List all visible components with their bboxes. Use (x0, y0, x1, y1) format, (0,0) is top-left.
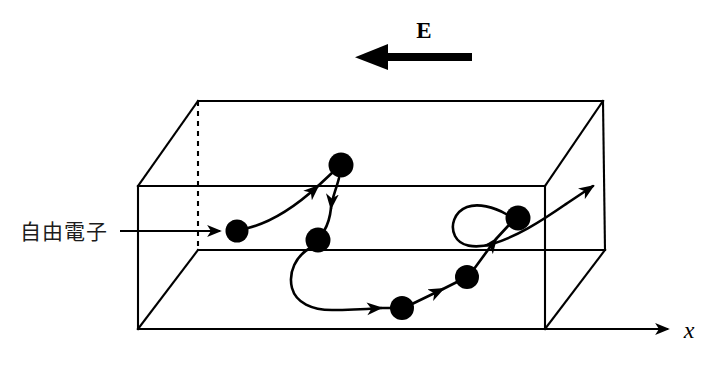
electric-field-label: E (416, 18, 431, 43)
x-axis-label: x (683, 317, 695, 343)
box-edge-top-left-slant (138, 101, 198, 186)
figure-root: E x 自由電子 (0, 0, 716, 365)
electron-dot-4 (390, 296, 414, 320)
electric-field-arrow-shaft (388, 53, 472, 61)
trajectory-segment-5b (496, 226, 508, 239)
electron-trajectory (248, 172, 593, 310)
trajectory-segment-4 (412, 289, 443, 304)
diagram-canvas: E x 自由電子 (0, 0, 716, 365)
trajectory-segment-2 (331, 178, 339, 208)
trajectory-segment-2b (324, 208, 331, 231)
trajectory-segment-3 (291, 248, 381, 310)
trajectory-segment-6b (566, 186, 593, 204)
electron-dot-3 (306, 228, 331, 253)
electric-field-arrow: E (355, 18, 472, 70)
electron-dot-2 (329, 153, 354, 178)
box-edge-back-right-vertical (603, 101, 605, 250)
trajectory-segment-1 (248, 186, 318, 228)
electron-dot-5 (455, 265, 479, 289)
box-edge-top-right-slant (545, 101, 603, 186)
x-axis: x (545, 317, 695, 343)
free-electron-callout: 自由電子 (20, 220, 220, 244)
free-electron-label: 自由電子 (20, 220, 108, 244)
electric-field-arrow-head (355, 44, 388, 70)
trajectory-segment-1b (318, 172, 333, 186)
box-edge-bottom-left-slant (138, 250, 198, 329)
electron-dot-1 (226, 220, 249, 243)
electron-dots (226, 153, 531, 321)
trajectory-segment-4b (443, 282, 457, 289)
electron-dot-6 (506, 206, 531, 231)
box-edge-bottom-right-slant (545, 250, 605, 329)
